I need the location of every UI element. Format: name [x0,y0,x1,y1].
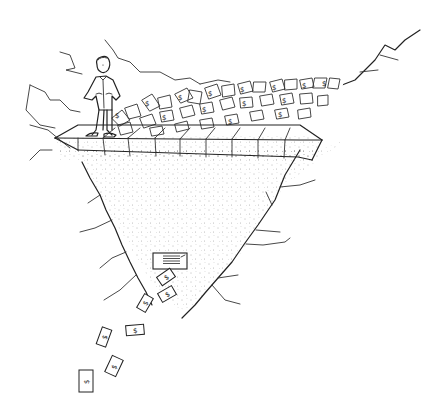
svg-text:$: $ [240,86,244,94]
falling-bill: $ [137,294,154,313]
svg-text:$: $ [302,82,306,90]
svg-text:$: $ [272,84,276,92]
svg-text:$: $ [145,100,149,108]
falling-bill: $ [126,324,145,336]
svg-text:$: $ [178,94,182,102]
funnel-chasm [78,140,345,318]
svg-text:$: $ [278,111,282,119]
funnel-money-drawing: $$ $$ $$ $$ $$ $$ $$ [0,0,448,417]
illustration-canvas: Man standing on a stone walkway at the e… [0,0,448,417]
svg-text:$: $ [83,380,91,384]
falling-bill: $ [96,327,112,347]
svg-text:$: $ [162,114,166,122]
svg-text:$: $ [208,90,212,98]
svg-text:$: $ [202,106,206,114]
svg-text:$: $ [133,327,138,335]
svg-text:$: $ [322,80,326,88]
bill-pile: $$ $$ $$ $$ $$ $$ $$ [110,78,345,136]
falling-bill: $ [105,355,123,376]
drain-box [153,253,187,269]
svg-text:$: $ [115,112,119,120]
svg-text:$: $ [282,97,286,105]
falling-bill: $ [79,370,93,392]
svg-text:$: $ [242,100,246,108]
